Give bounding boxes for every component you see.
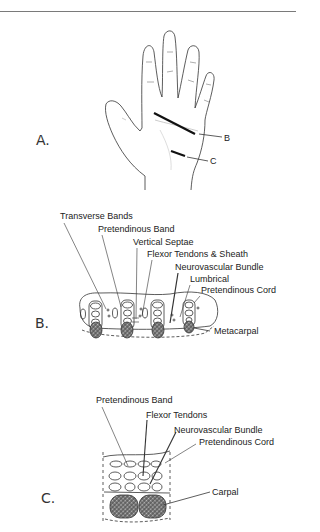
callout-transverse-bands: Transverse Bands bbox=[60, 211, 133, 221]
callout-flexor-tendons-sheath: Flexor Tendons & Sheath bbox=[147, 249, 248, 259]
callout-carpal: Carpal bbox=[212, 487, 239, 497]
callout-vertical-septae: Vertical Septae bbox=[133, 237, 194, 247]
callout-pretendinous-band-c: Pretendinous Band bbox=[96, 395, 173, 405]
callout-neurovascular-bundle-c: Neurovascular Bundle bbox=[174, 425, 263, 435]
callout-flexor-tendons: Flexor Tendons bbox=[146, 410, 207, 420]
callout-c: C bbox=[210, 156, 217, 166]
panel-label-b: B. bbox=[35, 316, 49, 330]
callout-neurovascular-bundle: Neurovascular Bundle bbox=[175, 262, 264, 272]
callout-pretendinous-band: Pretendinous Band bbox=[98, 224, 175, 234]
callout-pretendinous-cord: Pretendinous Cord bbox=[201, 285, 276, 295]
callout-lumbrical: Lumbrical bbox=[190, 274, 229, 284]
callout-metacarpal: Metacarpal bbox=[214, 326, 259, 336]
panel-label-a: A. bbox=[36, 133, 50, 147]
callout-pretendinous-cord-c: Pretendinous Cord bbox=[199, 437, 274, 447]
callout-b: B bbox=[224, 133, 230, 143]
panel-label-c: C. bbox=[41, 491, 55, 505]
hand-drawing bbox=[105, 31, 222, 190]
